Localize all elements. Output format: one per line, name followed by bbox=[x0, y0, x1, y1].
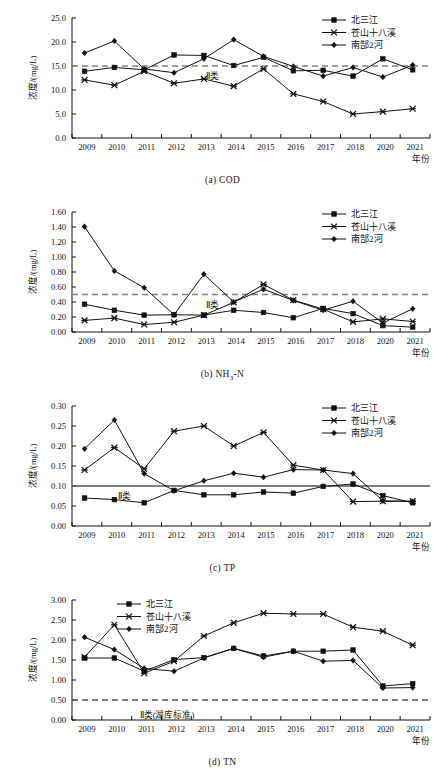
series-line bbox=[85, 304, 413, 327]
data-point-marker bbox=[381, 57, 386, 62]
data-point-marker bbox=[260, 610, 266, 616]
x-tick-label: 2011 bbox=[138, 530, 155, 540]
x-tick-label: 2014 bbox=[227, 142, 245, 152]
y-tick-label: 0.10 bbox=[51, 481, 66, 491]
caption-b-text: (b) bbox=[201, 369, 213, 379]
data-point-marker bbox=[81, 467, 87, 473]
y-tick-label: 1.50 bbox=[51, 655, 66, 665]
y-axis-title: 浓度/(mg/L) bbox=[27, 55, 38, 100]
data-point-marker bbox=[142, 471, 147, 477]
legend-label: 北三江 bbox=[146, 599, 173, 609]
legend-label: 北三江 bbox=[351, 209, 378, 219]
caption-d-title: TN bbox=[223, 757, 236, 767]
data-point-marker bbox=[82, 69, 87, 74]
data-point-marker bbox=[112, 647, 117, 653]
legend-marker bbox=[331, 418, 337, 424]
chart-panel-b: 0.000.200.400.600.801.001.201.401.60浓度/(… bbox=[0, 194, 445, 388]
y-tick-label: 0.00 bbox=[51, 327, 66, 337]
legend-marker bbox=[332, 406, 337, 411]
data-point-marker bbox=[112, 308, 117, 313]
x-tick-label: 2009 bbox=[78, 724, 95, 734]
x-tick-label: 2020 bbox=[377, 336, 394, 346]
legend-marker bbox=[332, 18, 337, 23]
figure-page: 0.05.010.015.020.025.0浓度/(mg/L)200920102… bbox=[0, 0, 445, 776]
plot-area-a: 0.05.010.015.020.025.0浓度/(mg/L)200920102… bbox=[0, 0, 445, 172]
x-tick-label: 2012 bbox=[168, 724, 185, 734]
data-point-marker bbox=[350, 111, 356, 117]
series-line bbox=[85, 284, 413, 324]
legend-label: 南郜2河 bbox=[351, 427, 383, 438]
chart-svg-3: 0.000.501.001.502.002.503.00浓度/(mg/L)200… bbox=[0, 582, 445, 754]
data-point-marker bbox=[112, 497, 117, 502]
y-tick-label: 0.40 bbox=[51, 297, 66, 307]
legend-label: 南郜2河 bbox=[351, 233, 383, 244]
caption-d: (d) TN bbox=[0, 754, 445, 770]
chart-panel-c: 0.000.050.100.150.200.250.30浓度/(mg/L)200… bbox=[0, 388, 445, 582]
data-point-marker bbox=[410, 325, 415, 330]
caption-d-text: (d) bbox=[209, 757, 221, 767]
x-tick-label: 2015 bbox=[257, 530, 274, 540]
x-tick-label: 2011 bbox=[138, 336, 155, 346]
caption-c-text: (c) bbox=[210, 563, 221, 573]
y-axis-title: 浓度/(mg/L) bbox=[27, 637, 38, 682]
threshold-label: Ⅱ类(湖库标准) bbox=[140, 709, 195, 720]
x-tick-label: 2014 bbox=[227, 724, 245, 734]
x-tick-label: 2016 bbox=[287, 142, 305, 152]
data-point-marker bbox=[201, 478, 206, 484]
x-tick-label: 2016 bbox=[287, 336, 305, 346]
plot-area-c: 0.000.050.100.150.200.250.30浓度/(mg/L)200… bbox=[0, 388, 445, 560]
x-tick-label: 2009 bbox=[78, 336, 95, 346]
chart-svg-1: 0.000.200.400.600.801.001.201.401.60浓度/(… bbox=[0, 194, 445, 366]
chart-svg-2: 0.000.050.100.150.200.250.30浓度/(mg/L)200… bbox=[0, 388, 445, 560]
data-point-marker bbox=[172, 53, 177, 58]
legend-label: 南郜2河 bbox=[146, 623, 178, 634]
x-tick-label: 2009 bbox=[78, 142, 95, 152]
y-tick-label: 10.0 bbox=[51, 85, 66, 95]
threshold-label: Ⅱ类 bbox=[206, 299, 219, 310]
x-tick-label: 2011 bbox=[138, 142, 155, 152]
x-tick-label: 2014 bbox=[227, 530, 245, 540]
series-line bbox=[85, 613, 413, 673]
data-point-marker bbox=[111, 445, 117, 451]
y-tick-label: 3.00 bbox=[51, 595, 66, 605]
y-axis-title: 浓度/(mg/L) bbox=[27, 443, 38, 488]
data-point-marker bbox=[171, 80, 177, 86]
data-point-marker bbox=[321, 649, 326, 654]
x-axis-title: 年份 bbox=[412, 347, 430, 358]
data-point-marker bbox=[231, 493, 236, 498]
data-point-marker bbox=[291, 315, 296, 320]
x-tick-label: 2018 bbox=[347, 336, 364, 346]
caption-b-title-post: -N bbox=[234, 369, 245, 379]
data-point-marker bbox=[350, 319, 356, 325]
data-point-marker bbox=[81, 77, 87, 83]
data-point-marker bbox=[350, 624, 356, 630]
x-tick-label: 2021 bbox=[406, 336, 423, 346]
data-point-marker bbox=[410, 68, 415, 73]
legend-label: 苍山十八溪 bbox=[351, 221, 396, 232]
legend-marker bbox=[126, 614, 132, 620]
data-point-marker bbox=[81, 317, 87, 323]
data-point-marker bbox=[82, 496, 87, 501]
data-point-marker bbox=[409, 106, 415, 112]
data-point-marker bbox=[171, 319, 177, 325]
data-point-marker bbox=[201, 633, 207, 639]
x-tick-label: 2017 bbox=[317, 724, 335, 734]
x-tick-label: 2017 bbox=[317, 336, 335, 346]
data-point-marker bbox=[260, 430, 266, 436]
legend-marker bbox=[127, 626, 132, 632]
y-tick-label: 1.00 bbox=[51, 675, 66, 685]
data-point-marker bbox=[230, 443, 236, 449]
series-line bbox=[85, 484, 413, 503]
data-point-marker bbox=[380, 109, 386, 115]
x-tick-label: 2012 bbox=[168, 336, 185, 346]
data-point-marker bbox=[230, 620, 236, 626]
legend-label: 南郜2河 bbox=[351, 39, 383, 50]
y-tick-label: 2.50 bbox=[51, 615, 66, 625]
data-point-marker bbox=[409, 319, 415, 325]
legend-label: 苍山十八溪 bbox=[146, 611, 191, 622]
data-point-marker bbox=[410, 306, 415, 312]
caption-a-title: COD bbox=[219, 175, 240, 185]
y-tick-label: 5.0 bbox=[55, 109, 66, 119]
data-point-marker bbox=[290, 91, 296, 97]
caption-a-text: (a) bbox=[205, 175, 216, 185]
